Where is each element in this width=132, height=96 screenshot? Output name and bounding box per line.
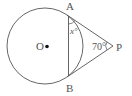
- label-angle-p: 70°: [92, 42, 106, 52]
- geometry-figure: A B O P 70° x°: [0, 0, 132, 96]
- circle: [7, 8, 83, 84]
- tangent-pb: [67, 46, 113, 77]
- label-point-b: B: [66, 83, 73, 94]
- center-dot-icon: [45, 45, 49, 49]
- label-point-o: O: [36, 41, 44, 52]
- label-point-p: P: [116, 42, 122, 53]
- label-point-a: A: [66, 1, 74, 12]
- label-angle-x: x°: [70, 27, 78, 36]
